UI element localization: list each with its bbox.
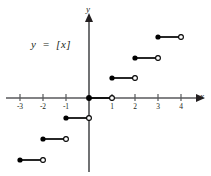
x-tick-label-minus-2: -2 xyxy=(36,102,50,111)
step-segment-2 xyxy=(132,55,160,60)
step-function-figure: y = [x] x y -3 -2 -1 1 2 3 4 xyxy=(0,0,211,176)
x-tick-label-minus-3: -3 xyxy=(13,102,27,111)
step-segment-minus-3 xyxy=(17,157,45,162)
equation-annotation: y = [x] xyxy=(31,38,71,50)
step-segment-0 xyxy=(86,95,114,101)
x-tick-label-3: 3 xyxy=(151,102,165,111)
x-tick-label-4: 4 xyxy=(174,102,188,111)
x-tick-label-minus-1: -1 xyxy=(59,102,73,111)
equation-rhs: [x] xyxy=(56,38,71,50)
step-segment-1 xyxy=(109,75,137,80)
y-axis-label: y xyxy=(86,4,90,14)
x-axis-label: x xyxy=(200,91,204,101)
step-segment-minus-2 xyxy=(40,136,68,141)
y-axis xyxy=(85,13,93,172)
equation-equals: = xyxy=(43,38,50,50)
equation-lhs: y xyxy=(31,38,36,50)
x-tick-label-2: 2 xyxy=(128,102,142,111)
graph-canvas xyxy=(0,0,211,176)
step-segment-3 xyxy=(155,34,183,39)
x-tick-label-1: 1 xyxy=(105,102,119,111)
step-segment-minus-1 xyxy=(63,115,91,120)
